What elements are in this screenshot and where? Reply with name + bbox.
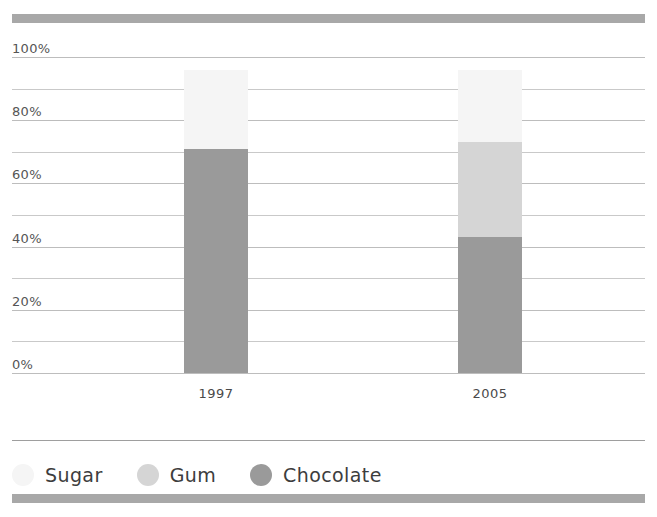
- legend-item[interactable]: Chocolate: [250, 464, 382, 486]
- gridline: [12, 310, 645, 311]
- legend-label: Chocolate: [283, 464, 382, 486]
- stacked-bar-chart: 100%80%60%40%20%0% 19972005 SugarGumChoc…: [0, 0, 657, 517]
- gridline: [12, 89, 645, 90]
- y-axis-tick-label: 60%: [12, 168, 70, 181]
- gridline: [12, 341, 645, 342]
- legend-swatch-circle-icon: [12, 464, 34, 486]
- y-axis-tick-label: 40%: [12, 232, 70, 245]
- y-axis-tick-label: 20%: [12, 295, 70, 308]
- legend-separator: [12, 440, 645, 441]
- gridline: [12, 120, 645, 121]
- bar-segment-sugar[interactable]: [458, 70, 522, 143]
- gridline: [12, 152, 645, 153]
- bar-segment-chocolate[interactable]: [184, 149, 248, 373]
- plot-area: [12, 57, 645, 373]
- bar-group[interactable]: [458, 57, 522, 373]
- gridline: [12, 247, 645, 248]
- chart-legend: SugarGumChocolate: [12, 457, 416, 493]
- y-axis-tick-label: 0%: [12, 358, 70, 371]
- x-axis-tick-label: 2005: [430, 386, 550, 401]
- gridline: [12, 278, 645, 279]
- top-decorative-rule: [12, 14, 645, 23]
- gridline: [12, 183, 645, 184]
- legend-item[interactable]: Sugar: [12, 464, 103, 486]
- legend-label: Gum: [170, 464, 216, 486]
- bar-group[interactable]: [184, 57, 248, 373]
- legend-swatch-circle-icon: [137, 464, 159, 486]
- gridline: [12, 215, 645, 216]
- bar-segment-gum[interactable]: [458, 142, 522, 237]
- x-axis-tick-label: 1997: [156, 386, 276, 401]
- bar-segment-sugar[interactable]: [184, 70, 248, 149]
- bar-segment-chocolate[interactable]: [458, 237, 522, 373]
- y-axis-tick-label: 100%: [12, 42, 70, 55]
- bottom-decorative-rule: [12, 494, 645, 503]
- gridline: [12, 373, 645, 374]
- legend-swatch-circle-icon: [250, 464, 272, 486]
- gridline: [12, 57, 645, 58]
- legend-item[interactable]: Gum: [137, 464, 216, 486]
- y-axis-tick-label: 80%: [12, 105, 70, 118]
- legend-label: Sugar: [45, 464, 103, 486]
